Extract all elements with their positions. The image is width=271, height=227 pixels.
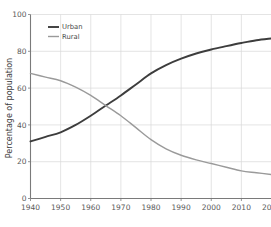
y-tick-label: 20 <box>17 157 27 166</box>
x-tick-label: 2020 <box>262 203 271 212</box>
plot-background <box>0 0 271 227</box>
chart-canvas: 020406080100 194019501960197019801990200… <box>0 0 271 227</box>
x-tick-label: 1980 <box>141 203 160 212</box>
legend-label-rural: Rural <box>62 33 80 41</box>
y-axis-title-group: Percentage of population <box>5 58 14 158</box>
y-tick-label: 40 <box>17 121 27 130</box>
x-tick-label: 1960 <box>81 203 100 212</box>
x-tick-label: 1990 <box>172 203 191 212</box>
x-tick-label: 1950 <box>51 203 70 212</box>
x-tick-label: 2010 <box>232 203 251 212</box>
x-tick-label: 1970 <box>111 203 130 212</box>
y-tick-label: 100 <box>12 10 27 19</box>
legend-label-urban: Urban <box>62 23 83 31</box>
y-tick-label: 60 <box>17 84 27 93</box>
x-tick-label: 1940 <box>21 203 40 212</box>
y-axis-title: Percentage of population <box>5 58 14 158</box>
line-chart: 020406080100 194019501960197019801990200… <box>0 0 271 227</box>
y-tick-label: 80 <box>17 47 27 56</box>
x-tick-label: 2000 <box>202 203 221 212</box>
